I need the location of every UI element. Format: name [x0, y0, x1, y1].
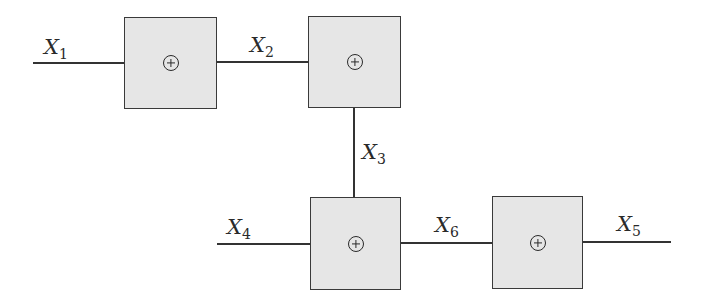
label-x6: X6 [435, 215, 459, 239]
edge-x5 [582, 241, 671, 243]
label-x4: X4 [227, 217, 251, 241]
xor-gate-2 [308, 16, 401, 108]
edge-x2 [216, 61, 309, 63]
xor-icon [348, 236, 364, 252]
edge-x3 [353, 107, 355, 198]
label-x2: X2 [250, 35, 274, 59]
xor-diagram: X1 X2 X3 X4 X6 X5 [0, 0, 703, 305]
label-x1: X1 [44, 37, 68, 61]
label-x3: X3 [362, 142, 386, 166]
xor-icon [347, 54, 363, 70]
xor-gate-4 [492, 196, 583, 289]
edge-x6 [400, 242, 493, 244]
xor-gate-1 [124, 17, 217, 109]
edge-x1 [33, 62, 125, 64]
xor-gate-3 [310, 197, 401, 290]
xor-icon [530, 235, 546, 251]
xor-icon [163, 55, 179, 71]
edge-x4 [217, 243, 311, 245]
label-x5: X5 [617, 214, 641, 238]
